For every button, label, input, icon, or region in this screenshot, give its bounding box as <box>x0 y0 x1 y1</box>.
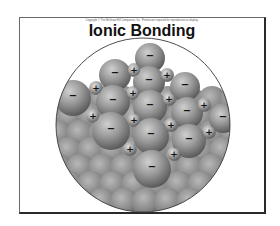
background-ion <box>231 137 259 165</box>
minus-charge-icon: − <box>148 161 156 172</box>
background-ion <box>220 154 248 182</box>
minus-charge-icon: − <box>185 133 193 144</box>
background-ion <box>231 103 259 131</box>
plus-charge-icon: + <box>200 100 208 110</box>
cation-front: + <box>128 64 140 76</box>
minus-charge-icon: − <box>107 123 115 134</box>
plus-charge-icon: + <box>89 111 97 121</box>
anion: − <box>133 150 171 188</box>
minus-charge-icon: − <box>147 128 155 139</box>
cation-front: + <box>203 126 215 138</box>
plus-charge-icon: + <box>126 144 134 154</box>
cation-front: + <box>163 93 175 105</box>
plus-charge-icon: + <box>163 70 171 80</box>
minus-charge-icon: − <box>69 90 77 101</box>
plus-charge-icon: + <box>130 65 138 75</box>
minus-charge-icon: − <box>183 105 191 116</box>
plus-charge-icon: + <box>167 120 175 130</box>
plus-charge-icon: + <box>165 94 173 104</box>
background-ion <box>209 171 237 199</box>
background-ion <box>55 171 83 199</box>
background-ion <box>176 188 204 216</box>
cation-front: + <box>198 99 210 111</box>
background-ion <box>66 188 94 216</box>
plus-charge-icon: + <box>129 88 137 98</box>
cation-front: + <box>124 143 136 155</box>
cation-front: + <box>165 119 177 131</box>
minus-charge-icon: − <box>146 99 154 110</box>
cation-front: + <box>128 114 140 126</box>
lattice-view: ++++++++++++ −−−−−−−−−−−−−++++++++++++ <box>44 30 259 220</box>
cation-front: + <box>87 110 99 122</box>
cation-front: + <box>127 87 139 99</box>
minus-charge-icon: − <box>109 94 117 105</box>
minus-charge-icon: − <box>145 74 153 85</box>
minus-charge-icon: − <box>181 79 189 90</box>
plus-charge-icon: + <box>205 127 213 137</box>
background-ion <box>44 188 72 216</box>
background-ion <box>198 188 226 216</box>
background-ion <box>231 171 259 199</box>
background-ion <box>220 188 248 216</box>
minus-charge-icon: − <box>219 111 227 122</box>
minus-charge-icon: − <box>111 67 119 78</box>
plus-charge-icon: + <box>130 115 138 125</box>
minus-charge-icon: − <box>146 50 154 61</box>
cation-front: + <box>161 69 173 81</box>
plus-charge-icon: + <box>170 149 178 159</box>
ionic-lattice-diagram: ++++++++++++ −−−−−−−−−−−−−++++++++++++ <box>0 0 280 226</box>
cation-front: + <box>168 148 180 160</box>
cation-front: + <box>90 82 102 94</box>
plus-charge-icon: + <box>92 83 100 93</box>
